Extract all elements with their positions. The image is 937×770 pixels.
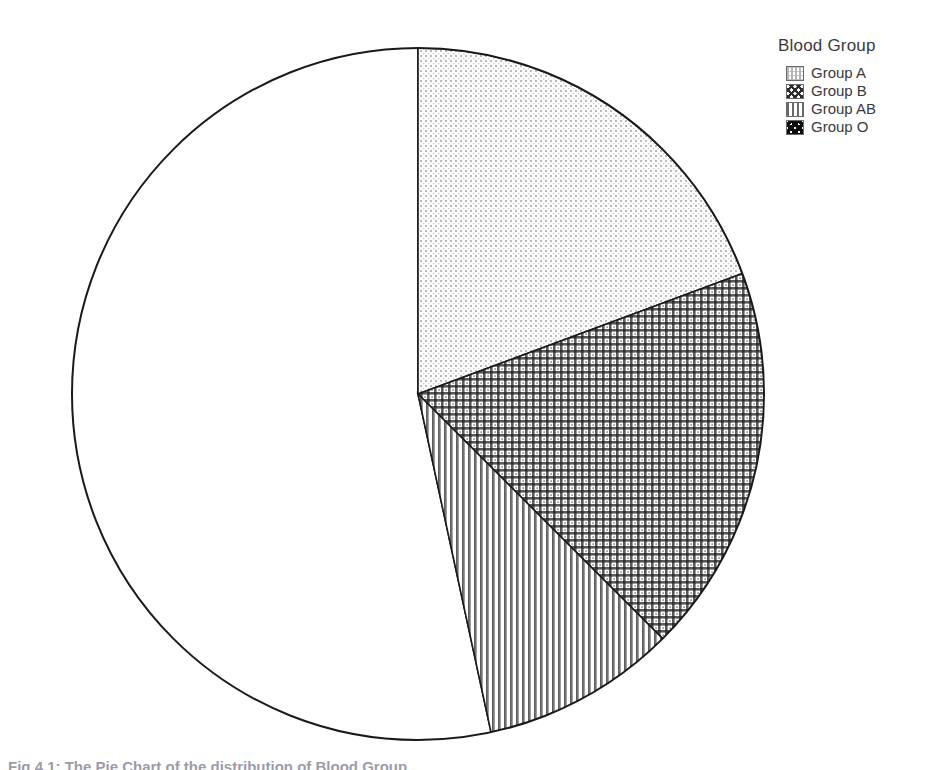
legend-label-group-b: Group B bbox=[811, 83, 867, 99]
legend-item-group-ab[interactable]: Group AB bbox=[772, 101, 932, 117]
legend-label-group-ab: Group AB bbox=[811, 101, 876, 117]
legend-title: Blood Group bbox=[778, 36, 932, 56]
legend-swatch-group-o bbox=[786, 120, 804, 135]
legend: Blood Group Group A Group B Group AB Gro… bbox=[772, 36, 932, 137]
legend-item-group-o[interactable]: Group O bbox=[772, 119, 932, 135]
legend-swatch-group-a bbox=[786, 66, 804, 81]
legend-label-group-o: Group O bbox=[811, 119, 869, 135]
figure-caption: Fig 4.1: The Pie Chart of the distributi… bbox=[8, 758, 708, 770]
legend-item-group-b[interactable]: Group B bbox=[772, 83, 932, 99]
legend-item-group-a[interactable]: Group A bbox=[772, 65, 932, 81]
pie-chart-figure: Blood Group Group A Group B Group AB Gro… bbox=[0, 0, 937, 770]
legend-label-group-a: Group A bbox=[811, 65, 866, 81]
legend-swatch-group-ab bbox=[786, 102, 804, 117]
legend-swatch-group-b bbox=[786, 84, 804, 99]
